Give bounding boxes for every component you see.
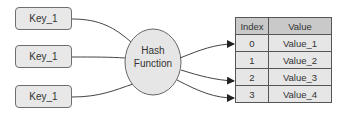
value-cell: Value_4 <box>269 86 332 103</box>
key-label: Key_1 <box>29 51 57 62</box>
key2-to-hash-line <box>72 57 125 58</box>
table-row: 2 Value_3 <box>236 69 332 86</box>
hash-label-line1: Hash <box>125 44 181 57</box>
hash-table: Index Value 0 Value_1 1 Value_2 2 Value_… <box>235 17 332 103</box>
hash-function-diagram: Key_1 Key_1 Key_1 Hash Function Index Va… <box>0 0 342 114</box>
key1-to-hash-line <box>72 19 131 42</box>
table-row: 0 Value_1 <box>236 35 332 52</box>
hash-function-label: Hash Function <box>125 44 181 70</box>
table-row: 1 Value_2 <box>236 52 332 69</box>
index-cell: 1 <box>236 52 269 69</box>
value-cell: Value_1 <box>269 35 332 52</box>
index-cell: 2 <box>236 69 269 86</box>
key3-to-hash-line <box>72 84 133 97</box>
index-header: Index <box>236 18 269 35</box>
hash-to-index0-arrow <box>180 44 234 58</box>
value-header: Value <box>269 18 332 35</box>
hash-to-index3-arrow <box>177 80 234 98</box>
hash-label-line2: Function <box>125 57 181 70</box>
table-row: 3 Value_4 <box>236 86 332 103</box>
table-header-row: Index Value <box>236 18 332 35</box>
index-cell: 3 <box>236 86 269 103</box>
key-box: Key_1 <box>15 7 72 30</box>
value-cell: Value_3 <box>269 69 332 86</box>
hash-to-index2-arrow <box>181 70 234 81</box>
key-label: Key_1 <box>29 13 57 24</box>
index-cell: 0 <box>236 35 269 52</box>
key-box: Key_1 <box>15 85 72 108</box>
value-cell: Value_2 <box>269 52 332 69</box>
key-label: Key_1 <box>29 91 57 102</box>
key-box: Key_1 <box>15 45 72 68</box>
